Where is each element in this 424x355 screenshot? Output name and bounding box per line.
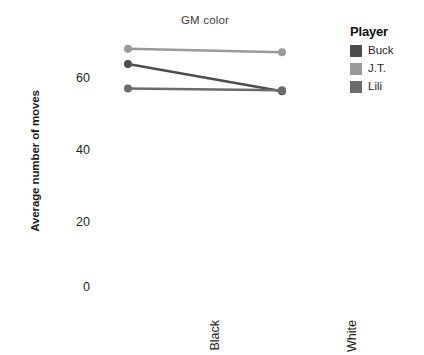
x-tick-label-black: Black xyxy=(208,320,222,355)
legend-swatch-jt xyxy=(350,63,362,75)
y-axis-tick-labels: 60 40 20 0 xyxy=(42,0,90,355)
y-tick-label-40: 40 xyxy=(46,143,90,157)
data-point-jt-black xyxy=(124,45,132,53)
legend-title: Player xyxy=(350,24,424,39)
legend-swatch-buck xyxy=(350,45,362,57)
data-point-lili-black xyxy=(124,84,132,92)
y-tick-label-20: 20 xyxy=(46,215,90,229)
series-line-lili xyxy=(128,88,282,90)
x-tick-label-white: White xyxy=(345,320,359,355)
legend-item-lili[interactable]: Lili xyxy=(350,80,424,93)
y-tick-label-0: 0 xyxy=(46,280,90,294)
legend-item-buck[interactable]: Buck xyxy=(350,44,424,57)
legend-label-lili: Lili xyxy=(368,80,382,93)
legend-label-jt: J.T. xyxy=(368,62,386,75)
plot-area: Black White xyxy=(110,20,300,295)
series-canvas xyxy=(110,20,300,295)
y-tick-label-60: 60 xyxy=(46,71,90,85)
series-line-buck xyxy=(128,64,282,91)
y-axis-title: Average number of moves xyxy=(29,61,41,261)
series-line-jt xyxy=(128,49,282,52)
data-point-buck-black xyxy=(124,60,132,68)
legend-label-buck: Buck xyxy=(368,44,394,57)
line-chart: GM color Average number of moves 60 40 2… xyxy=(0,0,424,355)
legend: Player Buck J.T. Lili xyxy=(350,24,424,98)
data-point-lili-white xyxy=(278,86,286,94)
legend-item-jt[interactable]: J.T. xyxy=(350,62,424,75)
data-point-jt-white xyxy=(278,48,286,56)
legend-swatch-lili xyxy=(350,81,362,93)
